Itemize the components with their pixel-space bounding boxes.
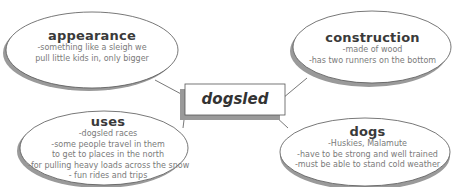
node-line: pull little kids in, only bigger xyxy=(12,54,172,65)
node-line: -some people travel in them xyxy=(28,140,188,151)
center-topic-text: dogsled xyxy=(202,90,269,108)
node-title: appearance xyxy=(12,28,172,43)
node-line: -something like a sleigh we xyxy=(12,43,172,54)
node-line: to get to places in the north xyxy=(28,150,188,161)
node-title: dogs xyxy=(290,124,445,139)
node-line: -Huskies, Malamute xyxy=(290,139,445,150)
node-line: -made of wood xyxy=(300,45,445,56)
connector-appearance xyxy=(155,80,183,95)
node-line: -has two runners on the bottom xyxy=(300,56,445,67)
node-line: -for pulling heavy loads across the snow xyxy=(28,161,188,172)
center-topic: dogsled xyxy=(185,90,285,108)
node-appearance: appearance -something like a sleigh we p… xyxy=(12,28,172,64)
node-construction: construction -made of wood -has two runn… xyxy=(300,30,445,66)
connector-construction xyxy=(283,78,307,98)
node-line: -dogsled races xyxy=(28,129,188,140)
node-line: -have to be strong and well trained xyxy=(290,150,445,161)
node-title: construction xyxy=(300,30,445,45)
node-line: - fun rides and trips xyxy=(28,171,188,182)
node-line: -must be able to stand cold weather xyxy=(290,160,445,171)
node-dogs: dogs -Huskies, Malamute -have to be stro… xyxy=(290,124,445,171)
node-uses: uses -dogsled races -some people travel … xyxy=(28,114,188,182)
node-title: uses xyxy=(28,114,188,129)
